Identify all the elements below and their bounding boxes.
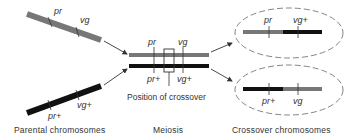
crossover-chromosome-top: pr vg+ [235, 8, 343, 58]
crossover-box [164, 49, 174, 72]
meiosis-black-chromosome [129, 64, 209, 68]
caption-crossover-chromosomes: Crossover chromosomes [232, 125, 331, 135]
gene-label-pr: pr [53, 6, 63, 16]
crossover-label-vg: vg [293, 96, 303, 106]
gene-label-vg-plus: vg+ [77, 100, 92, 110]
black-segment [243, 87, 283, 91]
position-of-crossover-label: Position of crossover [127, 92, 206, 102]
crossover-chromosome-bottom: pr+ vg [235, 65, 343, 115]
arrow-to-meiosis-top [104, 41, 127, 54]
grey-segment [243, 30, 283, 34]
gene-label-vg: vg [80, 15, 90, 25]
meiosis-pair: pr vg pr+ vg+ Position of crossover [127, 37, 209, 102]
gene-label-pr-plus: pr+ [47, 111, 61, 121]
caption-parental-chromosomes: Parental chromosomes [14, 125, 105, 135]
arrow-to-crossover-bottom [211, 69, 232, 81]
black-segment [283, 30, 322, 34]
meiosis-label-vg-plus: vg+ [177, 74, 192, 84]
grey-chromosome-bar [27, 14, 101, 40]
crossover-label-pr: pr [263, 15, 273, 25]
meiosis-label-pr: pr [147, 37, 157, 47]
crossover-diagram: pr vg pr+ vg+ pr vg pr+ vg+ Position of … [0, 0, 354, 140]
meiosis-label-pr-plus: pr+ [146, 74, 160, 84]
meiosis-label-vg: vg [178, 37, 188, 47]
crossover-label-pr-plus: pr+ [261, 96, 275, 106]
parental-chromosome-bottom: pr+ vg+ [27, 86, 101, 121]
caption-meiosis: Meiosis [153, 125, 183, 135]
grey-segment [283, 87, 322, 91]
parental-chromosome-top: pr vg [27, 6, 101, 40]
meiosis-grey-chromosome [129, 53, 209, 57]
arrow-to-meiosis-bottom [104, 69, 127, 85]
arrow-to-crossover-top [211, 43, 232, 52]
crossover-label-vg-plus: vg+ [293, 15, 308, 25]
